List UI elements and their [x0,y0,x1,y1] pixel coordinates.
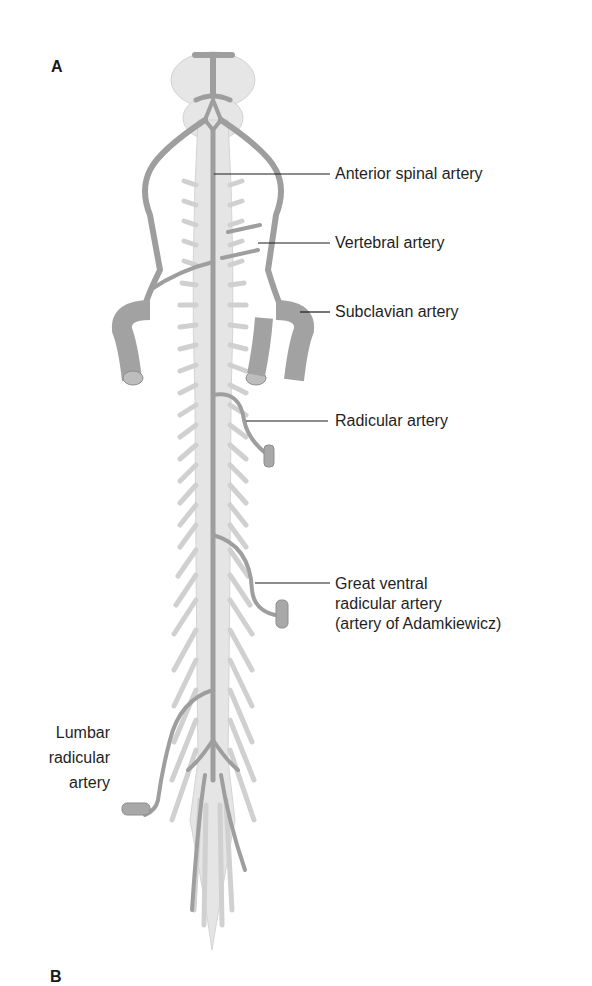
label-great-ventral-line2: radicular artery [335,594,442,613]
label-anterior-spinal-artery: Anterior spinal artery [335,164,483,183]
label-subclavian-artery: Subclavian artery [335,302,459,321]
label-vertebral-artery: Vertebral artery [335,233,444,252]
label-great-ventral-line1: Great ventral [335,574,427,593]
panel-label-a: A [51,58,63,76]
label-radicular-artery: Radicular artery [335,411,448,430]
label-lumbar-line1: Lumbar [20,723,110,742]
arteries [145,55,281,910]
label-great-ventral-line3: (artery of Adamkiewicz) [335,614,501,633]
panel-label-b: B [50,968,62,986]
label-lumbar-line3: artery [20,773,110,792]
label-lumbar-line2: radicular [20,748,110,767]
